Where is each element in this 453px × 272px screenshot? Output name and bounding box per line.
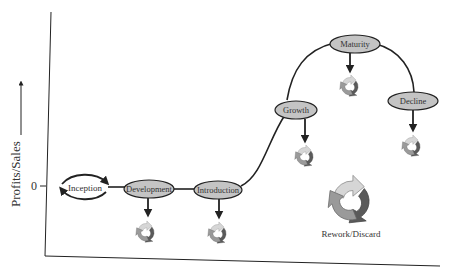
connector-maturity-decline	[376, 44, 414, 92]
recycle-arrows-icon	[295, 145, 313, 166]
stage-development[interactable]: Development	[124, 180, 174, 198]
stage-label-decline: Decline	[400, 96, 427, 106]
stage-inception[interactable]: Inception	[68, 183, 102, 193]
stage-label-development: Development	[126, 184, 172, 194]
y-axis-label: Profits/Sales	[8, 141, 23, 207]
zero-tick-label: 0	[31, 179, 37, 193]
legend-rework-label: Rework/Discard	[322, 229, 381, 239]
stage-label-growth: Growth	[283, 105, 310, 115]
recycle-arrows-icon	[402, 135, 420, 156]
y-axis	[45, 12, 51, 256]
connector-introduction-growth	[241, 115, 285, 186]
stage-decline[interactable]: Decline	[388, 92, 438, 110]
stage-label-maturity: Maturity	[340, 39, 370, 49]
recycle-arrows-icon	[136, 221, 154, 242]
stage-label-inception: Inception	[68, 183, 102, 193]
x-axis	[45, 256, 440, 266]
recycle-arrows-icon	[340, 75, 358, 96]
stage-maturity[interactable]: Maturity	[330, 35, 380, 53]
stage-introduction[interactable]: Introduction	[194, 181, 242, 199]
connector-growth-maturity	[287, 43, 334, 100]
legend-recycle-arrows-icon	[328, 175, 369, 223]
product-lifecycle-diagram: 0 Profits/Sales Inception Development In…	[0, 0, 453, 272]
stage-growth[interactable]: Growth	[275, 101, 317, 119]
stage-label-introduction: Introduction	[197, 185, 240, 195]
recycle-arrows-icon	[208, 222, 226, 243]
